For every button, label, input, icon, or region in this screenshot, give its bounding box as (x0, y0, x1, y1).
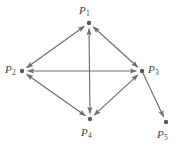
node-label-p5: P5 (157, 129, 168, 142)
graph-edge-p3-p5 (143, 73, 164, 117)
directed-graph-figure: P1P2P3P4P5 (0, 0, 182, 148)
graph-node-p3 (140, 69, 144, 73)
graph-edge-p1-p2 (27, 26, 85, 67)
graph-node-p2 (20, 69, 24, 73)
node-label-p3: P3 (148, 64, 159, 77)
graph-node-p5 (164, 120, 168, 124)
node-label-p1: P1 (79, 5, 90, 18)
node-label-p4: P4 (81, 127, 92, 140)
graph-edge-p3-p4 (94, 75, 138, 115)
graph-edge-p2-p4 (27, 74, 86, 116)
graph-node-p1 (87, 21, 91, 25)
node-layer (20, 21, 168, 124)
node-label-p2: P2 (5, 64, 16, 77)
graph-node-p4 (88, 117, 92, 121)
graph-edge-p1-p3 (93, 27, 138, 67)
